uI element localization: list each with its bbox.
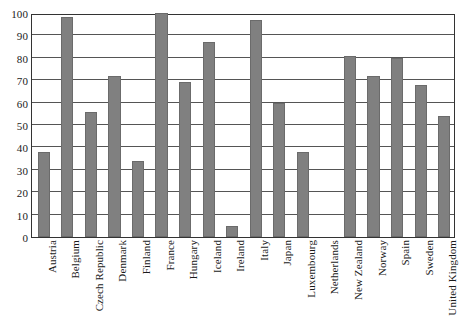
y-tick-label: 20 [2, 188, 28, 199]
bar [85, 112, 97, 237]
bar [273, 103, 285, 237]
x-tick-label: Netherlands [329, 240, 340, 294]
bars-layer [32, 15, 454, 237]
x-tick-label: Finland [141, 240, 152, 274]
x-tick-label: Belgium [70, 240, 81, 279]
y-tick-label: 70 [2, 76, 28, 87]
y-tick-label: 100 [2, 9, 28, 20]
bar [38, 152, 50, 237]
y-tick-label: 80 [2, 53, 28, 64]
bar [61, 17, 73, 237]
x-tick-label: Norway [377, 240, 388, 276]
x-tick-label: Sweden [424, 240, 435, 275]
plot-area [31, 14, 455, 238]
bar [391, 58, 403, 237]
y-tick-label: 90 [2, 31, 28, 42]
x-tick-label: Iceland [212, 240, 223, 273]
y-tick-label: 50 [2, 121, 28, 132]
bar [226, 226, 238, 237]
x-tick-label: Italy [259, 240, 270, 261]
x-tick-label: Luxembourg [306, 240, 317, 298]
x-tick-label: Czech Republic [94, 240, 105, 311]
bar [179, 82, 191, 237]
y-tick-label: 10 [2, 210, 28, 221]
bar [250, 20, 262, 237]
y-tick-label: 60 [2, 98, 28, 109]
bar [155, 13, 167, 237]
bar [108, 76, 120, 237]
x-tick-label: United Kingdom [447, 240, 458, 316]
bar [367, 76, 379, 237]
bar [438, 116, 450, 237]
bar-chart-figure: 1009080706050403020100 AustriaBelgiumCze… [0, 0, 468, 334]
bar [203, 42, 215, 237]
x-tick-label: France [165, 240, 176, 271]
y-tick-label: 40 [2, 143, 28, 154]
bar [344, 56, 356, 237]
x-tick-label: Ireland [235, 240, 246, 272]
x-tick-label: Austria [47, 240, 58, 273]
y-tick-label: 30 [2, 165, 28, 176]
x-tick-label: Spain [400, 240, 411, 266]
x-tick-label: Denmark [117, 240, 128, 282]
x-tick-label: New Zealand [353, 240, 364, 300]
x-tick-label: Japan [282, 240, 293, 266]
bar [132, 161, 144, 237]
y-tick-label: 0 [2, 233, 28, 244]
bar [297, 152, 309, 237]
x-tick-label: Hungary [188, 240, 199, 279]
x-axis: AustriaBelgiumCzech RepublicDenmarkFinla… [31, 240, 455, 334]
y-axis: 1009080706050403020100 [0, 0, 28, 334]
bar [415, 85, 427, 237]
